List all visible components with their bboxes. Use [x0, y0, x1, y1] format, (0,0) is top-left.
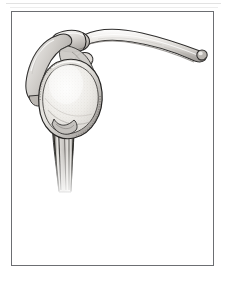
scan-top-rule-secondary-icon [10, 7, 218, 8]
figure-root [0, 0, 227, 281]
shaft-fade-mask [45, 150, 85, 200]
illustration-plate-frame [11, 11, 214, 266]
illustration-canvas [12, 12, 213, 265]
shoulder-girdle-illustration [12, 12, 213, 265]
scan-top-rule-icon [6, 3, 221, 4]
clavicle-sternal-end [197, 50, 207, 60]
